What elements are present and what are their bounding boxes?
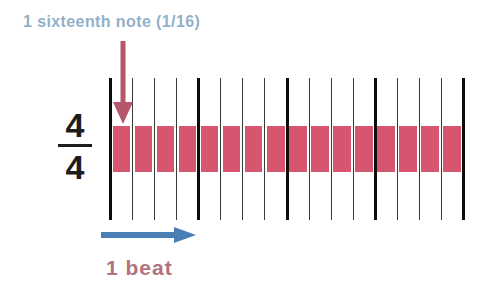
sixteenth-note-block [443, 126, 461, 172]
subdivision-line [353, 78, 354, 220]
subdivision-line [441, 78, 442, 220]
sixteenth-note-block [113, 126, 131, 172]
subdivision-line [154, 78, 155, 220]
sixteenth-note-block [311, 126, 329, 172]
sixteenth-note-block [333, 126, 351, 172]
subdivision-line [331, 78, 332, 220]
subdivision-line [264, 78, 265, 220]
beat-bar-line [374, 78, 377, 220]
beat-bar-line [462, 78, 465, 220]
sixteenth-note-block [421, 126, 439, 172]
sixteenth-note-block [355, 126, 373, 172]
sixteenth-note-pointer-arrow-icon [110, 40, 136, 126]
sixteenth-note-rhythm-diagram: 1 sixteenth note (1/16) 4 4 1 beat [0, 0, 491, 304]
time-signature: 4 4 [52, 108, 98, 184]
sixteenth-note-block [223, 126, 241, 172]
subdivision-line [220, 78, 221, 220]
subdivision-line [419, 78, 420, 220]
diagram-title: 1 sixteenth note (1/16) [23, 13, 200, 31]
sixteenth-note-block [179, 126, 197, 172]
subdivision-line [242, 78, 243, 220]
rhythm-grid [110, 78, 465, 220]
time-signature-numerator: 4 [52, 108, 98, 142]
time-signature-denominator: 4 [52, 150, 98, 184]
sixteenth-note-block [245, 126, 263, 172]
sixteenth-note-block [201, 126, 219, 172]
beat-label: 1 beat [106, 256, 173, 280]
subdivision-line [397, 78, 398, 220]
sixteenth-note-block [289, 126, 307, 172]
subdivision-line [309, 78, 310, 220]
subdivision-line [176, 78, 177, 220]
sixteenth-note-block [135, 126, 153, 172]
beat-bar-line [286, 78, 289, 220]
sixteenth-note-block [377, 126, 395, 172]
sixteenth-note-block [157, 126, 175, 172]
time-signature-fraction-bar [58, 144, 92, 147]
one-beat-arrow-icon [100, 226, 198, 246]
sixteenth-note-block [399, 126, 417, 172]
beat-bar-line [197, 78, 200, 220]
sixteenth-note-block [267, 126, 285, 172]
